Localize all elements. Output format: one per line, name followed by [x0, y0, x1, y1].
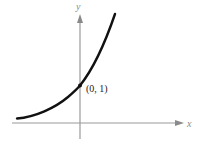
exponential-graph: y x (0, 1) — [0, 0, 199, 148]
point-marker — [78, 84, 82, 88]
x-axis-label: x — [186, 118, 192, 129]
y-axis-label: y — [75, 1, 81, 12]
exponential-curve — [17, 14, 115, 119]
y-axis — [77, 14, 83, 139]
point-label: (0, 1) — [86, 83, 108, 95]
y-axis-arrow-icon — [77, 14, 83, 23]
x-axis-arrow-icon — [175, 120, 184, 126]
x-axis — [12, 120, 184, 126]
